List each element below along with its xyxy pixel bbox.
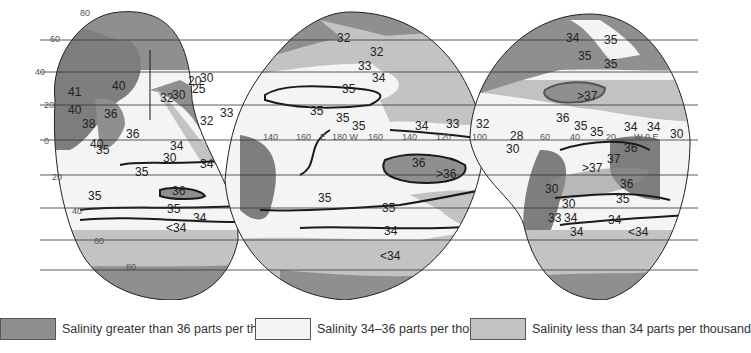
- svg-text:30: 30: [545, 182, 559, 196]
- svg-text:180 W: 180 W: [332, 132, 359, 142]
- svg-text:40: 40: [72, 206, 82, 216]
- svg-text:35: 35: [96, 143, 110, 157]
- svg-text:35: 35: [310, 104, 324, 118]
- legend-item-low: Salinity less than 34 parts per thousand: [470, 318, 751, 340]
- svg-text:40: 40: [112, 79, 126, 93]
- svg-text:60: 60: [94, 236, 104, 246]
- svg-text:36: 36: [104, 107, 118, 121]
- pacific-ocean-lobe: [220, 0, 490, 300]
- svg-text:30: 30: [172, 88, 186, 102]
- svg-text:35: 35: [167, 202, 181, 216]
- salinity-map: 80 60 40 20 0 20 40 60 80 140 160 E 180 …: [0, 0, 698, 300]
- svg-text:<34: <34: [166, 221, 187, 235]
- svg-text:36: 36: [412, 156, 426, 170]
- svg-text:38: 38: [82, 117, 96, 131]
- legend-swatch-high: [0, 318, 56, 340]
- svg-text:36: 36: [624, 141, 638, 155]
- svg-text:80: 80: [80, 8, 90, 18]
- svg-text:>37: >37: [582, 161, 603, 175]
- svg-text:35: 35: [578, 49, 592, 63]
- svg-text:160: 160: [368, 132, 383, 142]
- svg-text:30: 30: [506, 142, 520, 156]
- svg-text:100: 100: [472, 132, 487, 142]
- svg-text:20: 20: [44, 100, 54, 110]
- svg-text:35: 35: [342, 82, 356, 96]
- svg-text:35: 35: [318, 191, 332, 205]
- svg-text:30: 30: [670, 127, 684, 141]
- svg-text:33: 33: [358, 59, 372, 73]
- svg-text:60: 60: [540, 132, 550, 142]
- svg-text:20: 20: [606, 132, 616, 142]
- legend-swatch-low: [470, 318, 526, 340]
- svg-text:34: 34: [200, 157, 214, 171]
- svg-text:30: 30: [163, 151, 177, 165]
- svg-text:34: 34: [647, 120, 661, 134]
- svg-text:36: 36: [556, 111, 570, 125]
- svg-text:160: 160: [296, 132, 311, 142]
- svg-text:35: 35: [352, 119, 366, 133]
- svg-text:33: 33: [220, 106, 234, 120]
- svg-text:36: 36: [620, 177, 634, 191]
- svg-text:37: 37: [607, 152, 621, 166]
- svg-text:34: 34: [624, 120, 638, 134]
- svg-text:32: 32: [370, 45, 384, 59]
- legend-item-mid: Salinity 34–36 parts per thousand: [255, 318, 503, 340]
- svg-text:34: 34: [564, 211, 578, 225]
- svg-text:34: 34: [570, 225, 584, 239]
- svg-text:34: 34: [193, 211, 207, 225]
- svg-text:32: 32: [337, 31, 351, 45]
- svg-text:40: 40: [570, 132, 580, 142]
- svg-text:30: 30: [200, 71, 214, 85]
- svg-text:140: 140: [263, 132, 278, 142]
- svg-text:41: 41: [68, 85, 82, 99]
- legend-swatch-mid: [255, 318, 311, 340]
- svg-text:35: 35: [135, 165, 149, 179]
- svg-text:35: 35: [604, 57, 618, 71]
- svg-text:35: 35: [336, 111, 350, 125]
- svg-text:80: 80: [126, 262, 136, 272]
- svg-text:33: 33: [446, 117, 460, 131]
- svg-text:140: 140: [402, 132, 417, 142]
- svg-text:20: 20: [52, 172, 62, 182]
- legend: Salinity greater than 36 parts per thous…: [0, 318, 698, 342]
- svg-text:35: 35: [382, 201, 396, 215]
- svg-text:34: 34: [608, 213, 622, 227]
- svg-text:<34: <34: [380, 249, 401, 263]
- legend-label-low: Salinity less than 34 parts per thousand: [532, 322, 751, 336]
- svg-text:40: 40: [35, 67, 45, 77]
- indian-ocean-lobe: [40, 0, 260, 300]
- svg-text:120: 120: [436, 132, 451, 142]
- svg-text:36: 36: [126, 127, 140, 141]
- svg-text:40: 40: [68, 103, 82, 117]
- svg-text:30: 30: [562, 197, 576, 211]
- svg-text:34: 34: [384, 224, 398, 238]
- svg-text:36: 36: [172, 184, 186, 198]
- svg-text:35: 35: [590, 125, 604, 139]
- svg-text:35: 35: [604, 33, 618, 47]
- svg-text:0: 0: [44, 136, 49, 146]
- svg-text:>37: >37: [577, 89, 598, 103]
- svg-text:32: 32: [200, 114, 214, 128]
- svg-text:34: 34: [415, 119, 429, 133]
- legend-item-high: Salinity greater than 36 parts per thous…: [0, 318, 298, 340]
- svg-text:33: 33: [548, 211, 562, 225]
- svg-text:35: 35: [616, 192, 630, 206]
- svg-text:28: 28: [510, 129, 524, 143]
- svg-text:32: 32: [476, 117, 490, 131]
- svg-text:35: 35: [88, 189, 102, 203]
- svg-text:34: 34: [566, 31, 580, 45]
- svg-text:35: 35: [574, 119, 588, 133]
- atlantic-ocean-lobe: [460, 0, 698, 300]
- svg-text:<34: <34: [628, 225, 649, 239]
- svg-text:60: 60: [50, 34, 60, 44]
- svg-text:>36: >36: [436, 167, 457, 181]
- svg-text:E: E: [320, 132, 326, 142]
- svg-text:34: 34: [372, 71, 386, 85]
